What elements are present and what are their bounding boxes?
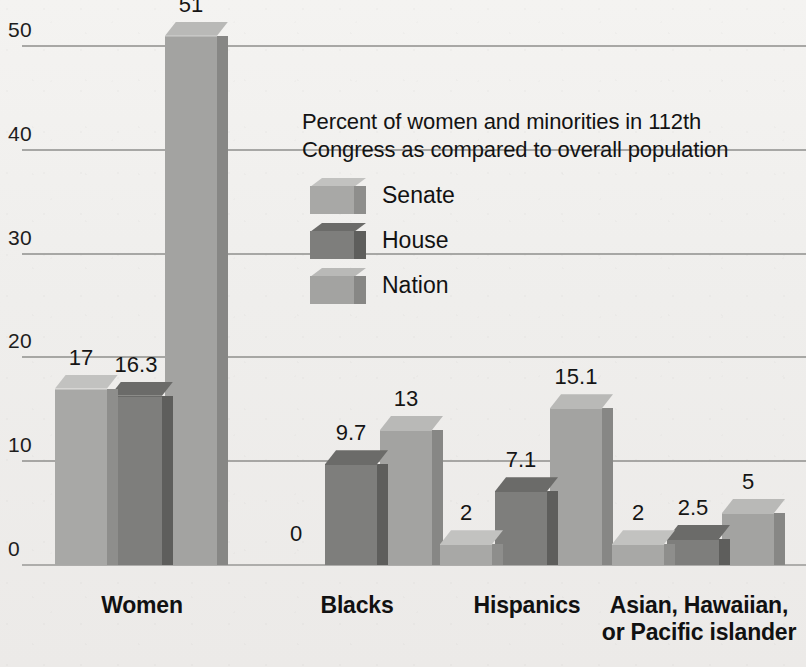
bar-top-face	[380, 416, 443, 430]
bar-top-face	[440, 530, 503, 544]
bar-top-face	[165, 22, 228, 36]
gridline	[22, 45, 806, 47]
bar-top-face	[55, 375, 118, 389]
bar-side-face	[162, 396, 173, 565]
bar-value-label: 51	[155, 0, 227, 18]
legend-label: Senate	[382, 182, 455, 209]
bar-nation-asian	[722, 499, 785, 565]
legend-swatch-nation-icon	[310, 268, 366, 304]
bar-top-face	[612, 530, 675, 544]
bar-top-face	[495, 477, 558, 491]
legend-item-senate[interactable]: Senate	[310, 173, 732, 218]
bar-top-face	[325, 450, 388, 464]
legend-caption: Percent of women and minorities in 112th…	[302, 108, 732, 163]
bar-house-blacks	[325, 450, 388, 565]
bar-value-label: 7.1	[485, 447, 557, 473]
bar-senate-hispanics	[440, 530, 503, 565]
bar-top-face	[722, 499, 785, 513]
bar-top-face	[110, 382, 173, 396]
bar-top-face	[550, 394, 613, 408]
bar-nation-hispanics	[550, 394, 613, 565]
bar-nation-blacks	[380, 416, 443, 565]
legend-label: Nation	[382, 272, 448, 299]
bar-side-face	[217, 36, 228, 565]
bar-value-label: 17	[45, 345, 117, 371]
swatch-front-face	[310, 276, 354, 304]
bar-front-face	[55, 389, 107, 565]
bar-front-face	[612, 544, 664, 565]
swatch-front-face	[310, 186, 354, 214]
bar-front-face	[440, 544, 492, 565]
bar-side-face	[492, 544, 503, 565]
bar-side-face	[107, 389, 118, 565]
swatch-side-face	[354, 231, 366, 259]
bar-front-face	[325, 464, 377, 565]
legend-item-nation[interactable]: Nation	[310, 263, 732, 308]
legend-item-house[interactable]: House	[310, 218, 732, 263]
bar-top-face	[667, 525, 730, 539]
bar-senate-asian	[612, 530, 675, 565]
plot-area: 01020304050 5116.317139.7015.17.1252.52 …	[0, 0, 806, 667]
swatch-side-face	[354, 276, 366, 304]
legend-items: SenateHouseNation	[310, 173, 732, 308]
y-axis-tick-label: 40	[8, 122, 54, 146]
bar-value-label: 2	[602, 500, 674, 526]
x-axis-category-line: or Pacific islander	[584, 619, 806, 646]
y-axis-tick-label: 50	[8, 18, 54, 42]
bar-side-face	[377, 464, 388, 565]
bar-side-face	[547, 491, 558, 565]
x-axis-category-label: Women	[37, 592, 247, 619]
bar-side-face	[719, 539, 730, 565]
legend-swatch-house-icon	[310, 223, 366, 259]
bar-nation-women	[165, 22, 228, 565]
x-axis-category-line: Women	[37, 592, 247, 619]
bar-value-label: 13	[370, 386, 442, 412]
legend-label: House	[382, 227, 448, 254]
y-axis-tick-label: 0	[8, 537, 54, 561]
legend-swatch-senate-icon	[310, 178, 366, 214]
chart-legend: Percent of women and minorities in 112th…	[302, 108, 732, 308]
bar-value-label: 2	[430, 500, 502, 526]
bar-house-women	[110, 382, 173, 565]
y-axis-tick-label: 10	[8, 433, 54, 457]
bar-senate-women	[55, 375, 118, 565]
bar-value-label: 15.1	[540, 364, 612, 390]
bar-value-label: 0	[260, 521, 332, 547]
y-axis-tick-label: 30	[8, 226, 54, 250]
swatch-side-face	[354, 186, 366, 214]
x-axis-category-label: Asian, Hawaiian,or Pacific islander	[584, 592, 806, 646]
bar-chart: 01020304050 5116.317139.7015.17.1252.52 …	[0, 0, 806, 667]
swatch-front-face	[310, 231, 354, 259]
x-axis-category-line: Asian, Hawaiian,	[584, 592, 806, 619]
bar-side-face	[774, 513, 785, 565]
bar-side-face	[664, 544, 675, 565]
bar-value-label: 5	[712, 469, 784, 495]
bar-house-hispanics	[495, 477, 558, 565]
bar-value-label: 9.7	[315, 420, 387, 446]
bar-house-asian	[667, 525, 730, 565]
